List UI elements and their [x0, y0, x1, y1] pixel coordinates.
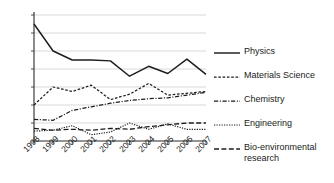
legend-label-engineering: Engineering	[244, 118, 292, 129]
legend-item-bio-environmental-research[interactable]: Bio-environmental research	[214, 142, 334, 163]
chart-legend: PhysicsMaterials ScienceChemistryEnginee…	[214, 0, 334, 183]
x-axis-label-2000: 2000	[59, 134, 79, 154]
legend-line-sample-engineering	[214, 120, 240, 130]
x-axis-label-2006: 2006	[174, 134, 194, 154]
x-axis-labels: 1998199920002001200220032004200520062007	[0, 0, 212, 183]
legend-item-chemistry[interactable]: Chemistry	[214, 94, 334, 106]
plot-area: 70%60%50%40%30%20%10%0% 1998199920002001…	[0, 0, 212, 183]
legend-label-bio-environmental-research: Bio-environmental research	[244, 142, 317, 163]
x-axis-label-2007: 2007	[193, 134, 213, 154]
x-axis-label-2001: 2001	[78, 134, 98, 154]
x-axis-label-1999: 1999	[40, 134, 60, 154]
legend-label-chemistry: Chemistry	[244, 94, 285, 105]
legend-line-sample-materials-science	[214, 72, 240, 82]
legend-item-physics[interactable]: Physics	[214, 46, 334, 58]
legend-label-physics: Physics	[244, 46, 275, 57]
legend-line-sample-physics	[214, 48, 240, 58]
x-axis-label-2005: 2005	[155, 134, 175, 154]
x-axis-label-2004: 2004	[136, 134, 156, 154]
legend-item-materials-science[interactable]: Materials Science	[214, 70, 334, 82]
chart-container: 70%60%50%40%30%20%10%0% 1998199920002001…	[0, 0, 334, 183]
x-axis-label-2002: 2002	[97, 134, 117, 154]
legend-line-sample-bio-environmental-research	[214, 144, 240, 154]
legend-label-materials-science: Materials Science	[244, 70, 315, 81]
legend-item-engineering[interactable]: Engineering	[214, 118, 334, 130]
legend-line-sample-chemistry	[214, 96, 240, 106]
x-axis-label-1998: 1998	[21, 134, 41, 154]
x-axis-label-2003: 2003	[117, 134, 137, 154]
